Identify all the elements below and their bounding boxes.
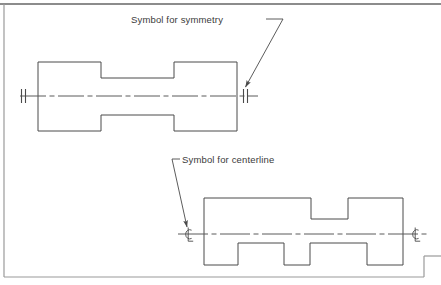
symmetry-leader-line <box>246 19 284 87</box>
drawing-sheet: Symbol for symmetry Symbol for centerlin… <box>0 0 441 285</box>
symmetry-label: Symbol for symmetry <box>131 14 223 25</box>
technical-drawing-canvas: Symbol for symmetry Symbol for centerlin… <box>0 0 441 285</box>
sheet-frame <box>0 4 441 277</box>
part-outline-stepped <box>204 198 403 265</box>
view-stepped-part: Symbol for centerline <box>172 154 427 265</box>
view-symmetric-dogbone-part: Symbol for symmetry <box>20 14 283 131</box>
centerline-leader-line <box>172 159 187 227</box>
centerline-label: Symbol for centerline <box>182 154 274 165</box>
